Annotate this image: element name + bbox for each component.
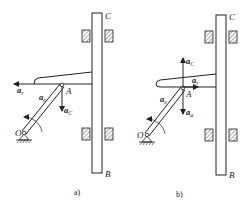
guide-bottom-right bbox=[105, 128, 113, 140]
crank-edge-2 bbox=[26, 87, 64, 134]
label-o: O bbox=[15, 128, 22, 138]
label-b: B bbox=[229, 170, 235, 180]
crank-edge-2 bbox=[149, 90, 185, 136]
caption-a: a) bbox=[74, 188, 81, 197]
label-a: A bbox=[65, 86, 72, 96]
label-vector-ae: ae bbox=[39, 92, 46, 103]
panel-a: C B A O ar ae aC a) bbox=[14, 11, 113, 197]
guide-bottom-left bbox=[82, 128, 90, 140]
caption-b: b) bbox=[176, 190, 183, 199]
label-vector-ac: aC bbox=[64, 105, 73, 116]
label-b: B bbox=[105, 169, 111, 179]
guide-top-left bbox=[205, 31, 213, 43]
guide-top-right bbox=[229, 31, 237, 43]
label-vector-ar: ar bbox=[17, 85, 24, 96]
label-vector-aa: aa bbox=[186, 107, 193, 118]
rod-cb bbox=[216, 15, 226, 175]
guide-bottom-left bbox=[205, 129, 213, 141]
ground-hatch bbox=[17, 140, 31, 143]
ground-support bbox=[142, 136, 152, 142]
label-vector-ar: ar bbox=[192, 75, 199, 86]
label-vector-ae: ae bbox=[160, 94, 167, 105]
label-c: C bbox=[229, 12, 236, 22]
ground-hatch bbox=[140, 142, 154, 145]
label-o: O bbox=[137, 130, 144, 140]
panel-b: C B A O aC ar ae aa b) bbox=[137, 12, 237, 199]
mechanism-diagram: C B A O ar ae aC a) bbox=[0, 0, 252, 210]
guide-top-left bbox=[82, 30, 90, 42]
slotted-arm bbox=[34, 72, 92, 84]
rod-cb bbox=[92, 13, 102, 173]
guide-bottom-right bbox=[229, 129, 237, 141]
label-c: C bbox=[105, 11, 112, 21]
label-vector-ac: aC bbox=[186, 56, 195, 67]
slotted-arm bbox=[156, 74, 216, 87]
guide-top-right bbox=[105, 30, 113, 42]
label-a: A bbox=[185, 89, 192, 99]
